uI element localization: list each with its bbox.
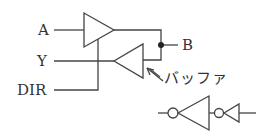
label-a: A xyxy=(38,23,49,38)
forward-buffer-icon xyxy=(84,13,114,47)
label-dir: DIR xyxy=(17,83,46,98)
label-b: B xyxy=(182,38,193,53)
buffer-symbol-icon xyxy=(158,96,256,130)
junction-dot xyxy=(158,42,164,48)
dir-wire xyxy=(54,39,98,90)
buffer-diagram: A Y DIR B バッファ xyxy=(0,0,272,138)
label-buffer: バッファ xyxy=(164,71,228,86)
reverse-buffer-icon xyxy=(114,44,143,78)
label-y: Y xyxy=(37,54,47,69)
